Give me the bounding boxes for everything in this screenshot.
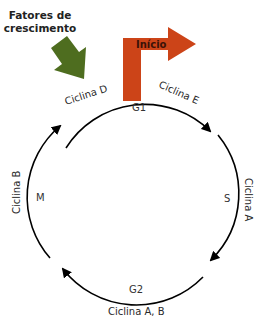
phase-g2-label: G2 <box>129 284 143 295</box>
growth-factors-arrow-icon <box>51 36 86 79</box>
start-label: Início <box>136 39 167 50</box>
growth-factors-arrow <box>51 36 86 79</box>
cyclin-ab-label: Ciclina A, B <box>108 306 165 317</box>
phase-g1-label: G1 <box>132 102 146 113</box>
phase-s-label: S <box>224 193 230 204</box>
growth-factors-label-line2: crescimento <box>4 22 76 34</box>
cyclin-b-label: Ciclina B <box>11 171 22 214</box>
cyclin-d-label: Ciclina D <box>63 83 109 107</box>
cyclin-e-label: Ciclina E <box>157 79 201 106</box>
cell-cycle-diagram: Início Fatores de crescimento G1 S G2 M … <box>0 0 267 325</box>
cyclin-a-label: Ciclina A <box>243 178 254 221</box>
phase-m-label: M <box>36 192 45 203</box>
growth-factors-label-line1: Fatores de <box>9 9 72 21</box>
